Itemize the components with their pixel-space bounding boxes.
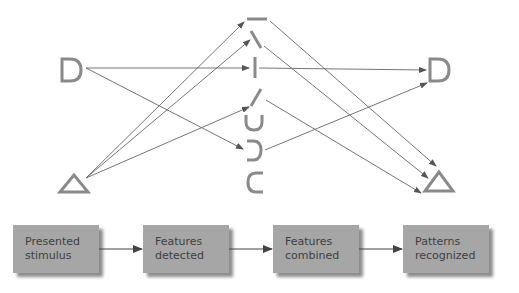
feature-backslash-line-icon (251, 31, 261, 48)
input-letter-d-icon (62, 59, 81, 81)
feature-network-diagram (0, 0, 519, 210)
edge-slash-line-to-triangle (266, 100, 421, 193)
process-flow: Presented stimulus Features detected Fea… (0, 210, 519, 293)
output-triangle-icon (425, 172, 453, 191)
edge-vertical-line-to-d (259, 68, 426, 70)
feature-right-curve-icon (247, 141, 261, 160)
input-triangle-icon (60, 175, 88, 192)
edge-d-to-right-curve (86, 68, 243, 149)
feature-slash-line-icon (251, 89, 261, 106)
feature-u-curve-icon (246, 115, 262, 130)
edge-backslash-line-to-triangle (264, 46, 428, 178)
feature-left-curve-icon (248, 173, 263, 192)
output-letter-d-icon (430, 59, 449, 81)
flow-arrows (0, 210, 519, 293)
edge-triangle-to-horizontal-line (86, 22, 244, 178)
edge-horizontal-line-to-triangle (270, 21, 436, 166)
edge-triangle-to-slash-line (86, 107, 249, 178)
edge-right-curve-to-d (265, 83, 427, 150)
edge-triangle-to-backslash-line (86, 40, 250, 178)
